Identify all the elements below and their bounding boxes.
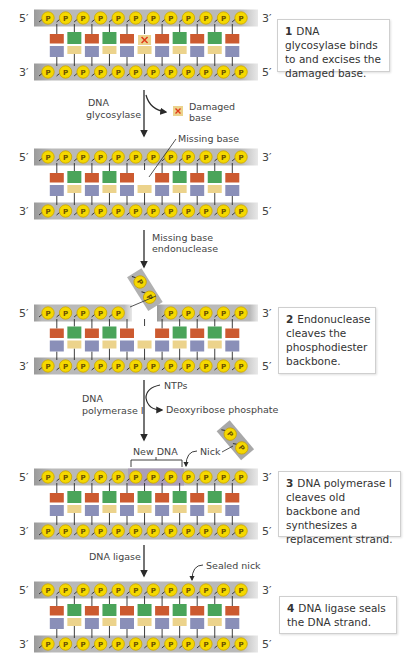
phosphate-label: P	[203, 310, 208, 318]
phosphate-label: P	[151, 587, 156, 595]
phosphate-label: P	[116, 310, 121, 318]
arrow-deoxyribose-out	[146, 398, 162, 410]
phosphate-label: P	[203, 474, 208, 482]
base-pair	[102, 483, 116, 525]
base-green	[102, 604, 116, 616]
end-label-top-left: 5′	[19, 584, 29, 597]
phosphate-label: P	[116, 641, 121, 649]
phosphate-label: P	[45, 587, 50, 595]
base-blue	[120, 185, 134, 196]
phosphate-label: P	[238, 528, 243, 536]
phosphate-label: P	[221, 69, 226, 77]
base-yellow	[102, 46, 116, 54]
phosphate-label: P	[116, 69, 121, 77]
phosphate-label: P	[168, 15, 173, 23]
base-pair	[85, 483, 99, 525]
label-damaged-2: base	[189, 112, 212, 123]
damaged-base-icon	[173, 106, 183, 116]
base-pair	[155, 483, 169, 525]
base-red	[225, 329, 239, 339]
phosphate-label: P	[116, 208, 121, 216]
end-label-top-right: 3′	[262, 307, 272, 320]
phosphate-label: P	[203, 154, 208, 162]
base-blue	[155, 618, 169, 629]
label-sealed-nick: Sealed nick	[206, 560, 261, 571]
base-green	[173, 604, 187, 616]
base-pair	[225, 163, 239, 205]
base-red	[85, 34, 99, 44]
base-blue	[120, 618, 134, 629]
base-pair	[85, 319, 99, 360]
end-label-top-right: 3′	[262, 471, 272, 484]
phosphate-label: P	[238, 474, 243, 482]
phosphate-label: P	[151, 363, 156, 371]
base-pair	[67, 24, 81, 66]
base-green	[173, 491, 187, 503]
phosphate-label: P	[203, 69, 208, 77]
phosphate-label: P	[98, 641, 103, 649]
base-pair	[85, 24, 99, 66]
leader-sealed-nick	[192, 565, 203, 580]
end-label-top-left: 5′	[19, 471, 29, 484]
base-blue	[85, 341, 99, 352]
phosphate-label: P	[238, 310, 243, 318]
phosphate-label: P	[238, 69, 243, 77]
base-green	[173, 32, 187, 44]
phosphate-label: P	[221, 641, 226, 649]
phosphate-label: P	[168, 69, 173, 77]
base-pair	[67, 596, 81, 638]
base-blue	[85, 505, 99, 516]
label-endonuclease-2: endonuclease	[152, 243, 218, 254]
base-pairs	[50, 483, 240, 525]
base-yellow	[102, 341, 116, 349]
phosphate-label: P	[81, 528, 86, 536]
label-ligase: DNA ligase	[89, 551, 141, 562]
phosphate-label: P	[151, 474, 156, 482]
phosphate-label: P	[98, 310, 103, 318]
base-red	[120, 173, 134, 183]
base-blue	[50, 505, 64, 516]
base-pair	[102, 163, 116, 205]
phosphate-label: P	[133, 641, 138, 649]
base-red	[50, 34, 64, 44]
base-blue	[85, 185, 99, 196]
base-pair	[225, 319, 239, 360]
phosphate-label: P	[221, 528, 226, 536]
phosphate-label: P	[63, 154, 68, 162]
phosphate-label: P	[133, 528, 138, 536]
base-green	[208, 327, 222, 339]
phosphate-label: P	[98, 69, 103, 77]
phosphate-label: P	[63, 15, 68, 23]
label-damaged-1: Damaged	[189, 101, 235, 112]
base-red	[190, 173, 204, 183]
phosphate-label: P	[221, 208, 226, 216]
phosphate-label: P	[45, 208, 50, 216]
base-pair	[225, 483, 239, 525]
base-pair	[155, 319, 169, 360]
phosphate-label: P	[63, 641, 68, 649]
phosphate-label: P	[238, 208, 243, 216]
base-yellow	[102, 505, 116, 513]
phosphate-label: P	[168, 363, 173, 371]
base-red	[225, 493, 239, 503]
bottom-backbone: PPPPPPPPPPPP	[34, 203, 258, 220]
phosphate-label: P	[45, 69, 50, 77]
base-pair	[102, 24, 116, 66]
base-yellow	[138, 505, 152, 513]
top-backbone: PPPPPPPPPPPP	[34, 10, 258, 27]
phosphate-label: P	[98, 154, 103, 162]
phosphate-label: P	[203, 528, 208, 536]
base-blue	[225, 618, 239, 629]
phosphate-label: P	[151, 154, 156, 162]
end-label-bottom-right: 5′	[262, 525, 272, 538]
phosphate-label: P	[203, 15, 208, 23]
base-blue	[155, 46, 169, 57]
phosphate-label: P	[63, 474, 68, 482]
step-1-text: DNA glycosylase binds to and excises the…	[285, 25, 381, 79]
phosphate-label: P	[45, 363, 50, 371]
base-green	[67, 32, 81, 44]
base-pair	[138, 24, 152, 66]
label-missing-base: Missing base	[178, 133, 239, 144]
base-green	[173, 171, 187, 183]
base-red	[85, 173, 99, 183]
